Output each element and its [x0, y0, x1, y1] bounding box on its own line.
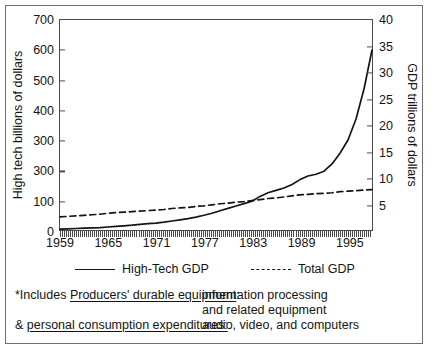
- y-axis-right-tick-label: 15: [379, 146, 393, 159]
- legend-label-total-gdp: Total GDP: [298, 262, 355, 276]
- x-axis-minor-ticks: [60, 230, 372, 237]
- y-axis-left-tickmark: [60, 201, 65, 202]
- y-axis-left-tickmark: [60, 141, 65, 142]
- x-axis-tick-label: 1977: [191, 237, 219, 250]
- footnote-line-3-lead: & personal consumption expenditures:: [6, 318, 202, 333]
- footnote-line-1-lead: *Includes Producers' durable equipment:: [6, 288, 202, 303]
- y-axis-left-tick-label: 500: [33, 74, 54, 87]
- x-axis-tick-label: 1965: [94, 237, 122, 250]
- footnote-line-1-prefix: *Includes: [15, 288, 70, 302]
- y-axis-left-tickmark: [60, 171, 65, 172]
- y-axis-left-tick-label: 300: [33, 165, 54, 178]
- x-axis-tick-label: 1959: [46, 237, 74, 250]
- footnote-line-2-value: and related equipment: [202, 303, 326, 318]
- x-axis-tick-label: 1983: [239, 237, 267, 250]
- y-axis-left-tick-label: 300: [33, 135, 54, 148]
- footnote-line-1: *Includes Producers' durable equipment: …: [6, 288, 424, 303]
- y-axis-right-tickmark: [367, 99, 372, 100]
- y-axis-right-tickmark: [367, 205, 372, 206]
- footnote-line-1-value: information processing: [202, 288, 328, 303]
- y-axis-right-title: GDP trillions of dollars: [404, 19, 420, 231]
- footnote-line-3: & personal consumption expenditures: aud…: [6, 318, 424, 333]
- legend-label-high-tech-gdp: High-Tech GDP: [122, 262, 209, 276]
- series-line-high-tech-gdp: [60, 50, 372, 229]
- y-axis-right-title-text: GDP trillions of dollars: [405, 63, 419, 186]
- figure-frame: High tech billions of dollars GDP trilli…: [5, 5, 423, 344]
- figure-footnote: *Includes Producers' durable equipment: …: [6, 288, 424, 333]
- y-axis-left-tickmark: [60, 80, 65, 81]
- series-canvas: [60, 20, 372, 230]
- y-axis-right-tick-label: 5: [379, 199, 386, 212]
- chart-legend: High-Tech GDP Total GDP: [6, 262, 424, 276]
- plot-frame: 7006005004003003001000 403530252015105 1…: [59, 19, 373, 231]
- y-axis-left-tick-label: 700: [33, 14, 54, 27]
- y-axis-left-tickmark: [60, 50, 65, 51]
- y-axis-left-tick-label: 600: [33, 44, 54, 57]
- x-axis-tick-label: 1995: [336, 237, 364, 250]
- legend-swatch-solid: [75, 265, 115, 274]
- footnote-line-2: and related equipment: [6, 303, 424, 318]
- footnote-line-3-underlined: personal consumption expenditures:: [27, 318, 228, 332]
- x-axis-tick-label: 1989: [288, 237, 316, 250]
- y-axis-right-tick-label: 25: [379, 93, 393, 106]
- y-axis-right-tickmark: [367, 178, 372, 179]
- legend-item-high-tech-gdp: High-Tech GDP: [75, 262, 209, 276]
- y-axis-left-title: High tech billions of dollars: [10, 19, 26, 231]
- y-axis-right-tick-label: 40: [379, 14, 393, 27]
- y-axis-right-tickmark: [367, 125, 372, 126]
- y-axis-right-tickmark: [367, 46, 372, 47]
- y-axis-left-title-text: High tech billions of dollars: [11, 51, 25, 200]
- y-axis-right-tick-label: 35: [379, 40, 393, 53]
- legend-swatch-dashed: [251, 265, 291, 274]
- legend-item-total-gdp: Total GDP: [251, 262, 355, 276]
- footnote-line-3-prefix: &: [15, 318, 27, 332]
- chart-area: High tech billions of dollars GDP trilli…: [6, 6, 424, 246]
- y-axis-right-tick-label: 20: [379, 120, 393, 133]
- y-axis-left-tickmark: [60, 110, 65, 111]
- y-axis-left-tick-label: 100: [33, 195, 54, 208]
- x-axis-tick-label: 1971: [143, 237, 171, 250]
- y-axis-right-tickmark: [367, 152, 372, 153]
- y-axis-right-tick-label: 30: [379, 67, 393, 80]
- y-axis-left-tick-label: 400: [33, 105, 54, 118]
- y-axis-right-tick-label: 10: [379, 173, 393, 186]
- y-axis-right-tickmark: [367, 72, 372, 73]
- footnote-line-3-value: audio, video, and computers: [202, 318, 359, 333]
